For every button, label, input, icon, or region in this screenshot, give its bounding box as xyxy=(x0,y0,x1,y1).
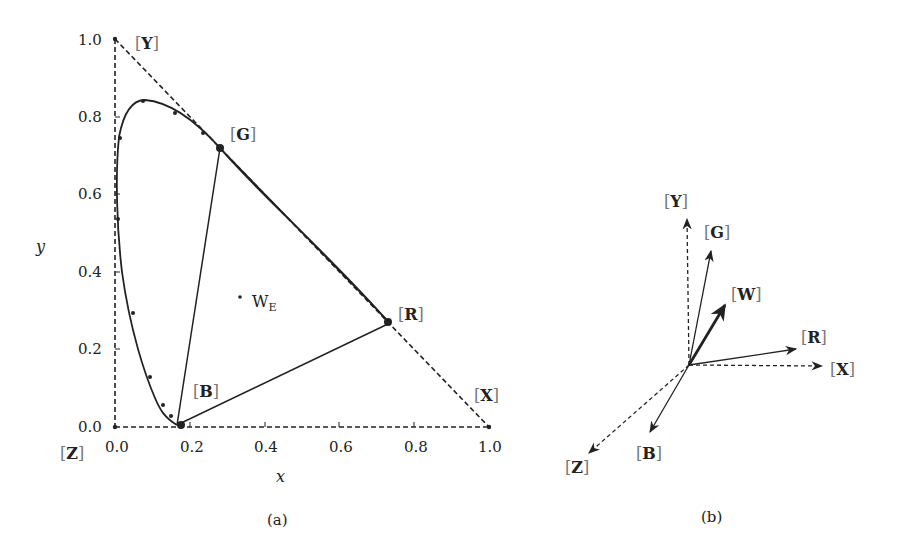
x-tick-5: 1.0 xyxy=(478,438,502,456)
y-tick-0: 0.0 xyxy=(78,418,102,436)
label-b-r: [R] xyxy=(801,328,827,347)
vector-y xyxy=(687,219,689,365)
label-y: [Y] xyxy=(135,34,159,53)
y-tick-3: 0.6 xyxy=(78,185,102,203)
label-b: [B] xyxy=(193,382,219,401)
y-tick-labels: 0.0 0.2 0.4 0.6 0.8 1.0 xyxy=(78,31,102,436)
locus-sample-points xyxy=(116,99,205,418)
caption-a: (a) xyxy=(267,511,288,529)
point-y xyxy=(113,37,117,41)
vector-z xyxy=(589,365,689,453)
label-r: [R] xyxy=(398,305,424,324)
y-tick-1: 0.2 xyxy=(78,340,102,358)
label-b-g: [G] xyxy=(704,223,730,242)
label-b-b: [B] xyxy=(636,444,662,463)
cie-diagram-figure: 0.0 0.2 0.4 0.6 0.8 1.0 0.0 0.2 0.4 0.6 … xyxy=(0,0,901,557)
label-b-y: [Y] xyxy=(664,192,688,211)
label-b-x: [X] xyxy=(830,360,855,379)
point-r xyxy=(384,318,392,326)
label-x: [X] xyxy=(474,386,499,405)
x-tick-0: 0.0 xyxy=(105,438,129,456)
y-axis-title: y xyxy=(35,237,46,256)
label-white-e: WE xyxy=(252,292,276,314)
point-z xyxy=(113,425,117,429)
x-tick-labels: 0.0 0.2 0.4 0.6 0.8 1.0 xyxy=(105,438,502,456)
label-b-z: [Z] xyxy=(565,458,589,477)
point-x xyxy=(487,425,491,429)
y-tick-2: 0.4 xyxy=(78,263,102,281)
vector-r xyxy=(689,349,796,365)
spectral-locus-curve xyxy=(117,100,390,425)
label-b-w: [W] xyxy=(731,285,761,304)
y-tick-4: 0.8 xyxy=(78,108,102,126)
x-tick-2: 0.4 xyxy=(254,438,278,456)
vector-b xyxy=(650,365,689,432)
label-z: [Z] xyxy=(60,444,84,463)
x-tick-4: 0.8 xyxy=(404,438,428,456)
label-g: [G] xyxy=(230,125,256,144)
x-axis-title: x xyxy=(276,467,285,486)
caption-b: (b) xyxy=(701,508,722,526)
vector-x xyxy=(689,365,822,366)
panel-a-chromaticity-diagram: 0.0 0.2 0.4 0.6 0.8 1.0 0.0 0.2 0.4 0.6 … xyxy=(35,31,502,529)
point-g xyxy=(216,144,224,152)
panel-b-vector-diagram: [Y] [G] [W] [R] [X] [B] [Z] (b) xyxy=(565,192,855,526)
point-white-e xyxy=(238,295,242,299)
x-tick-3: 0.6 xyxy=(329,438,353,456)
y-tick-5: 1.0 xyxy=(78,31,102,49)
x-tick-1: 0.2 xyxy=(180,438,204,456)
point-b xyxy=(177,421,185,429)
